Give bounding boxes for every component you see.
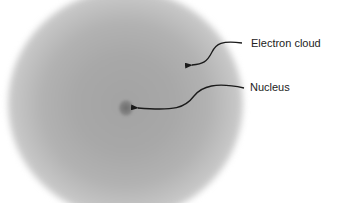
atom-diagram: Electron cloud Nucleus (0, 0, 347, 203)
annotation-arrows (0, 0, 347, 203)
electron-cloud-arrow (192, 42, 242, 65)
nucleus-label: Nucleus (250, 82, 290, 93)
nucleus-arrow (138, 85, 244, 109)
electron-cloud-label: Electron cloud (251, 38, 321, 49)
